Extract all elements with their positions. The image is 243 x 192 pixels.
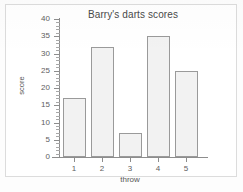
x-tick-label-1: 1 bbox=[64, 164, 84, 173]
x-tick-4 bbox=[158, 158, 159, 162]
chart-figure: Barry's darts scores 0510152025303540 sc… bbox=[0, 0, 243, 192]
x-axis-label: throw bbox=[60, 175, 200, 184]
bars-container bbox=[60, 19, 200, 157]
y-tick-0 bbox=[54, 157, 60, 158]
x-tick-label-4: 4 bbox=[148, 164, 168, 173]
x-tick-3 bbox=[130, 158, 131, 162]
x-tick-label-3: 3 bbox=[120, 164, 140, 173]
x-tick-label-2: 2 bbox=[92, 164, 112, 173]
x-tick-2 bbox=[102, 158, 103, 162]
y-tick-label-40: 40 bbox=[28, 15, 50, 23]
y-tick-label-30: 30 bbox=[28, 50, 50, 58]
y-tick-label-20: 20 bbox=[28, 84, 50, 92]
x-tick-label-5: 5 bbox=[176, 164, 196, 173]
y-tick-label-35: 35 bbox=[28, 32, 50, 40]
y-tick-label-25: 25 bbox=[28, 67, 50, 75]
x-tick-5 bbox=[186, 158, 187, 162]
y-tick-label-5: 5 bbox=[28, 136, 50, 144]
x-tick-1 bbox=[74, 158, 75, 162]
y-tick-label-0: 0 bbox=[28, 153, 50, 161]
bar-throw-1 bbox=[63, 98, 86, 157]
y-axis-label: score bbox=[17, 64, 26, 108]
y-tick-label-10: 10 bbox=[28, 119, 50, 127]
y-tick-label-15: 15 bbox=[28, 101, 50, 109]
bar-throw-3 bbox=[119, 133, 142, 157]
bar-throw-5 bbox=[175, 71, 198, 157]
bar-throw-4 bbox=[147, 36, 170, 157]
bar-throw-2 bbox=[91, 47, 114, 157]
